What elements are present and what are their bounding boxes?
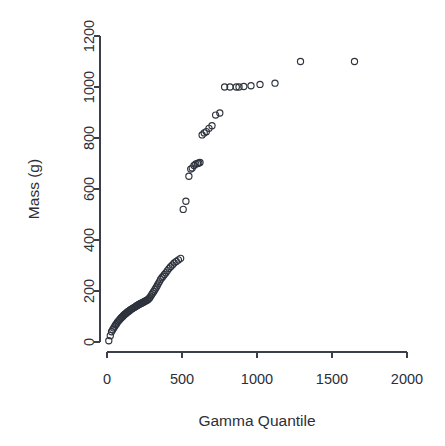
y-tick-label: 1200 bbox=[81, 20, 97, 52]
x-tick-label: 500 bbox=[170, 371, 194, 387]
x-tick-label: 2000 bbox=[391, 371, 423, 387]
y-tick-label: 400 bbox=[81, 228, 97, 252]
x-axis bbox=[107, 352, 407, 358]
y-tick-label: 0 bbox=[81, 338, 97, 346]
y-tick-label: 800 bbox=[81, 126, 97, 150]
data-point bbox=[257, 81, 263, 87]
y-tick-label: 600 bbox=[81, 177, 97, 201]
x-tick-label: 0 bbox=[103, 371, 111, 387]
data-point bbox=[186, 173, 192, 179]
x-tick-label: 1500 bbox=[316, 371, 348, 387]
axis-tick-labels: 0200400600800100012000500100015002000Mas… bbox=[25, 20, 424, 429]
plot-canvas: 0200400600800100012000500100015002000Mas… bbox=[0, 0, 445, 446]
x-axis-title: Gamma Quantile bbox=[198, 412, 315, 429]
data-point bbox=[272, 80, 278, 86]
data-point bbox=[180, 206, 186, 212]
data-points bbox=[106, 58, 358, 343]
y-tick-label: 1000 bbox=[81, 71, 97, 103]
y-axis-title: Mass (g) bbox=[25, 159, 42, 219]
data-point bbox=[183, 198, 189, 204]
data-point bbox=[248, 83, 254, 89]
x-tick-label: 1000 bbox=[241, 371, 273, 387]
data-point bbox=[297, 58, 303, 64]
qq-plot-figure: 0200400600800100012000500100015002000Mas… bbox=[0, 0, 445, 446]
data-point bbox=[351, 58, 357, 64]
y-tick-label: 200 bbox=[81, 279, 97, 303]
